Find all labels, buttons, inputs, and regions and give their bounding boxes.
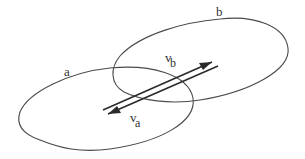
- vector-va-arrow: [108, 66, 218, 114]
- region-b-outline: [113, 18, 288, 102]
- diagram-canvas: a b v b v a: [0, 0, 305, 159]
- region-b-label: b: [216, 4, 223, 19]
- vector-va-label: v a: [130, 110, 141, 130]
- region-a-label: a: [64, 64, 70, 79]
- vector-vb-arrow: [103, 62, 212, 110]
- vector-va-label-sub: a: [135, 116, 141, 130]
- vector-vb-label: v b: [165, 50, 176, 70]
- vector-vb-label-sub: b: [170, 56, 176, 70]
